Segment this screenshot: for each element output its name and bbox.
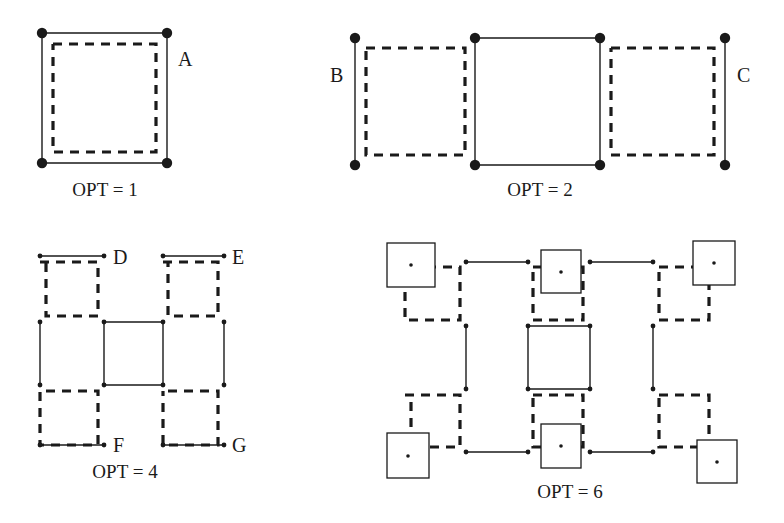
label-A: A bbox=[178, 48, 193, 70]
node-bottom-mid-left bbox=[526, 450, 531, 455]
box-center-dot-top-mid bbox=[559, 270, 563, 274]
node-bottom-mid-right bbox=[588, 450, 593, 455]
node-mid-upper-left bbox=[38, 320, 43, 325]
inner-square-dashed bbox=[53, 44, 156, 152]
node-mid-upper-right bbox=[222, 320, 227, 325]
fig-opt-1: AOPT = 1 bbox=[37, 28, 193, 200]
right-square-dashed bbox=[611, 48, 714, 155]
fig-opt-4: DEFGOPT = 4 bbox=[38, 246, 247, 482]
vertex-right-top bbox=[720, 33, 730, 43]
fig-opt-2-caption: OPT = 2 bbox=[507, 179, 572, 200]
node-mid-lower-right bbox=[651, 387, 656, 392]
node-mid-lower-left bbox=[38, 383, 43, 388]
label-D: D bbox=[113, 246, 127, 268]
box-center-dot-bottom-left bbox=[406, 454, 410, 458]
vertex-bottom-right bbox=[162, 158, 172, 168]
node-center-top-left bbox=[102, 320, 107, 325]
left-square-dashed bbox=[366, 48, 465, 155]
vertex-left-bottom bbox=[350, 160, 360, 170]
middle-square-solid bbox=[475, 38, 600, 165]
node-top-mid-left bbox=[526, 260, 531, 265]
vertex-left-top bbox=[350, 33, 360, 43]
node-center-bottom-left bbox=[102, 383, 107, 388]
fig-opt-1-caption: OPT = 1 bbox=[72, 179, 137, 200]
node-center-bottom-left bbox=[526, 387, 531, 392]
node-top-mid-right bbox=[588, 260, 593, 265]
vertex-top-left bbox=[37, 28, 47, 38]
fig-opt-6: OPT = 6 bbox=[387, 241, 737, 502]
node-center-top-left bbox=[526, 324, 531, 329]
box-center-dot-top-right bbox=[712, 261, 716, 265]
vertex-top-right bbox=[162, 28, 172, 38]
node-top-mid-right bbox=[161, 254, 166, 259]
node-bottom-right bbox=[222, 443, 227, 448]
center-square-solid bbox=[104, 322, 163, 385]
label-C: C bbox=[737, 64, 750, 86]
bottom-right-cell-dashed bbox=[659, 395, 709, 447]
node-top-left-inner bbox=[464, 260, 469, 265]
fig-opt-2: BCOPT = 2 bbox=[330, 33, 750, 200]
node-center-bottom-right bbox=[588, 387, 593, 392]
figure-board: AOPT = 1BCOPT = 2DEFGOPT = 4OPT = 6 bbox=[0, 0, 784, 523]
box-center-dot-top-left bbox=[409, 263, 413, 267]
node-top-right bbox=[222, 254, 227, 259]
node-bottom-left bbox=[38, 443, 43, 448]
node-bottom-right-inner bbox=[651, 450, 656, 455]
node-mid-upper-right bbox=[651, 324, 656, 329]
node-center-top-right bbox=[161, 320, 166, 325]
node-mid-lower-right bbox=[222, 383, 227, 388]
vertex-right-bottom bbox=[720, 160, 730, 170]
node-mid-upper-left bbox=[464, 324, 469, 329]
node-mid-lower-left bbox=[464, 387, 469, 392]
box-center-dot-bottom-right bbox=[715, 460, 719, 464]
label-G: G bbox=[232, 434, 246, 456]
node-bottom-mid-right bbox=[161, 443, 166, 448]
center-square-solid bbox=[528, 326, 590, 389]
label-F: F bbox=[113, 434, 124, 456]
node-center-bottom-right bbox=[161, 383, 166, 388]
fig-opt-6-caption: OPT = 6 bbox=[537, 481, 602, 502]
box-center-dot-bottom-mid bbox=[559, 444, 563, 448]
label-B: B bbox=[330, 64, 343, 86]
node-top-right-inner bbox=[651, 260, 656, 265]
bottom-right-cell-dashed bbox=[163, 391, 218, 445]
node-top-left bbox=[38, 254, 43, 259]
vertex-middle-bottom-left bbox=[470, 160, 480, 170]
vertex-middle-top-left bbox=[470, 33, 480, 43]
vertex-middle-bottom-right bbox=[595, 160, 605, 170]
node-bottom-mid-left bbox=[102, 443, 107, 448]
top-left-cell-dashed bbox=[40, 262, 98, 316]
node-bottom-left-inner bbox=[464, 450, 469, 455]
vertex-bottom-left bbox=[37, 158, 47, 168]
figures-canvas: AOPT = 1BCOPT = 2DEFGOPT = 4OPT = 6 bbox=[0, 0, 784, 523]
bottom-left-cell-dashed bbox=[40, 391, 98, 445]
node-center-top-right bbox=[588, 324, 593, 329]
top-right-cell-dashed bbox=[163, 262, 218, 316]
outer-square-solid bbox=[42, 33, 167, 163]
label-E: E bbox=[232, 246, 244, 268]
vertex-middle-top-right bbox=[595, 33, 605, 43]
fig-opt-4-caption: OPT = 4 bbox=[92, 461, 158, 482]
node-top-mid-left bbox=[102, 254, 107, 259]
